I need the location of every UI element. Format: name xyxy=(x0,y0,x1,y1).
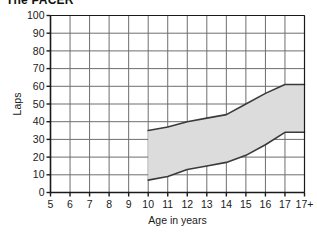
x-axis-title: Age in years xyxy=(148,214,206,226)
x-tick-label: 11 xyxy=(162,198,173,210)
y-tick-label: 70 xyxy=(33,62,45,74)
x-tick-label: 12 xyxy=(181,198,193,210)
x-tick-label: 5 xyxy=(48,198,54,210)
x-tick-label: 16 xyxy=(260,198,272,210)
x-tick-label: 9 xyxy=(126,198,132,210)
x-tick-label: 14 xyxy=(221,198,233,210)
y-tick-label: 60 xyxy=(33,80,45,92)
x-tick-label: 7 xyxy=(87,198,93,210)
x-tick-label: 15 xyxy=(240,198,252,210)
x-tick-label: 10 xyxy=(142,198,154,210)
y-tick-label: 20 xyxy=(33,151,45,163)
y-tick-label: 0 xyxy=(39,186,45,198)
y-axis-title: Laps xyxy=(11,93,23,116)
x-tick-label: 17 xyxy=(279,198,291,210)
y-tick-label: 100 xyxy=(27,9,45,21)
y-tick-label: 40 xyxy=(33,115,45,127)
y-tick-label: 80 xyxy=(33,45,45,57)
chart-canvas: 0102030405060708090100567891011121314151… xyxy=(0,0,317,235)
y-tick-label: 10 xyxy=(33,168,45,180)
x-tick-label: 13 xyxy=(201,198,213,210)
x-tick-label: 8 xyxy=(106,198,112,210)
pacer-chart: 0102030405060708090100567891011121314151… xyxy=(0,0,317,235)
x-tick-label: 6 xyxy=(67,198,73,210)
y-tick-label: 50 xyxy=(33,98,45,110)
y-tick-label: 90 xyxy=(33,27,45,39)
y-tick-label: 30 xyxy=(33,133,45,145)
x-tick-label: 17+ xyxy=(296,198,314,210)
